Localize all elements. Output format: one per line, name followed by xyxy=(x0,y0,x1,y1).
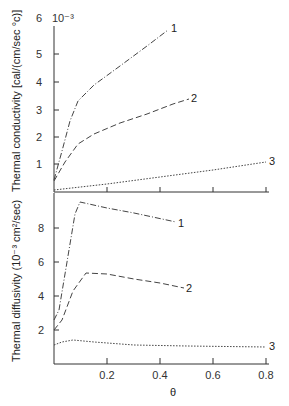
bottom-x-ticks xyxy=(107,358,266,364)
top-series-1-line xyxy=(54,30,168,180)
series-label-2-bottom: 2 xyxy=(186,282,192,294)
x-axis-title: θ xyxy=(170,386,176,398)
top-y-axis-title: Thermal conductivity [cal/(cm/sec °c)] xyxy=(10,10,22,192)
tick-label: 0.8 xyxy=(258,369,273,381)
top-series xyxy=(54,30,266,190)
top-series-3-line xyxy=(54,162,266,190)
bottom-series-2-line xyxy=(54,273,184,330)
top-y-ticks xyxy=(54,54,59,164)
top-y-tick-labels: 1 2 3 4 5 6 10⁻³ xyxy=(36,12,74,170)
tick-label: 0.6 xyxy=(205,369,220,381)
tick-label: 6 xyxy=(36,12,42,24)
tick-label: 8 xyxy=(38,222,44,234)
bottom-y-tick-labels: 2 4 6 8 xyxy=(38,222,44,336)
tick-label: 3 xyxy=(36,104,42,116)
bottom-series-1-line xyxy=(54,202,176,320)
bottom-y-axis-title: Thermal diffusivity (10⁻³ cm²/sec) xyxy=(10,200,22,362)
bottom-panel-axes xyxy=(54,193,269,364)
tick-label: 1 xyxy=(36,158,42,170)
series-label-3-top: 3 xyxy=(269,155,275,167)
series-label-3-bottom: 3 xyxy=(269,340,275,352)
tick-label: 2 xyxy=(36,131,42,143)
tick-label: 6 xyxy=(38,256,44,268)
series-label-1-bottom: 1 xyxy=(178,217,184,229)
bottom-series-3-line xyxy=(54,340,266,347)
tick-label: 5 xyxy=(36,48,42,60)
bottom-series xyxy=(54,202,266,347)
x-tick-labels: 0.2 0.4 0.6 0.8 xyxy=(99,369,273,381)
multiplier-label: 10⁻³ xyxy=(52,12,74,24)
series-label-2-top: 2 xyxy=(191,92,197,104)
top-panel-axes xyxy=(54,26,269,192)
chart-figure: 1 2 3 4 5 6 10⁻³ 2 4 6 8 0.2 0.4 0.6 0.8 xyxy=(0,0,289,406)
top-x-ticks xyxy=(107,187,266,192)
series-label-1-top: 1 xyxy=(171,22,177,34)
tick-label: 4 xyxy=(38,290,44,302)
tick-label: 0.4 xyxy=(152,369,167,381)
tick-label: 4 xyxy=(36,76,42,88)
tick-label: 2 xyxy=(38,324,44,336)
tick-label: 0.2 xyxy=(99,369,114,381)
